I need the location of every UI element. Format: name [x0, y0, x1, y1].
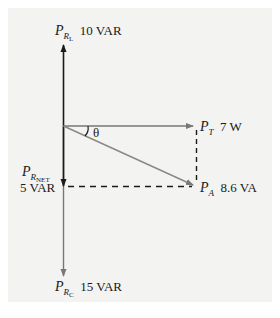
prc-symbol: P: [55, 279, 64, 294]
pt-sub: T: [209, 127, 214, 137]
pt-label: PT 7 W: [200, 120, 242, 137]
pa-symbol: P: [200, 180, 209, 195]
pa-label: PA 8.6 VA: [200, 181, 257, 198]
prl-symbol: P: [55, 23, 64, 38]
phasor-diagram: [0, 0, 280, 318]
pa-vector: [64, 126, 194, 185]
prl-value: 10 VAR: [80, 23, 122, 38]
pt-value: 7 W: [220, 119, 242, 134]
pt-symbol: P: [200, 119, 209, 134]
prc-label: PRC 15 VAR: [55, 280, 122, 299]
theta-arc: [85, 126, 88, 136]
prc-value: 15 VAR: [80, 279, 122, 294]
prc-subsub: C: [69, 291, 74, 299]
prl-subsub: L: [69, 35, 73, 43]
pa-value: 8.6 VA: [221, 180, 257, 195]
pa-sub: A: [209, 188, 215, 198]
theta-label: θ: [93, 125, 99, 141]
prnet-symbol: P: [22, 164, 31, 179]
prnet-value: 5 VAR: [20, 181, 55, 194]
prl-label: PRL 10 VAR: [55, 24, 122, 43]
